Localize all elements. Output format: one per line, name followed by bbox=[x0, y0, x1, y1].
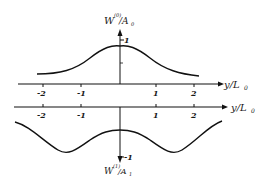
top-xlabel: y/L bbox=[223, 79, 240, 90]
bottom-ylabel-den: /A bbox=[117, 167, 127, 176]
bottom-curve bbox=[15, 121, 222, 152]
bottom-ytick--1: -1 bbox=[124, 152, 133, 162]
bottom-xtick--2: -2 bbox=[37, 110, 46, 120]
top-xtick--1: -1 bbox=[77, 88, 86, 98]
top-ylabel-sub: 0 bbox=[131, 21, 135, 27]
chart-svg: -2 -1 1 2 1 W (0) /A 0 y/L 0 -2 -1 1 2 -… bbox=[0, 0, 267, 182]
top-ytick-1: 1 bbox=[124, 35, 130, 45]
figure: -2 -1 1 2 1 W (0) /A 0 y/L 0 -2 -1 1 2 -… bbox=[0, 0, 267, 182]
bottom-xtick--1: -1 bbox=[77, 110, 86, 120]
top-xlabel-sub: 0 bbox=[244, 84, 248, 91]
top-curve bbox=[37, 46, 199, 76]
bottom-xlabel-sub: 0 bbox=[251, 107, 255, 114]
bottom-panel: -2 -1 1 2 -1 W (1) /A 1 y/L 0 bbox=[14, 102, 255, 177]
bottom-xtick-2: 2 bbox=[190, 110, 197, 120]
bottom-x-axis-arrow-icon bbox=[222, 105, 228, 110]
top-panel: -2 -1 1 2 1 W (0) /A 0 y/L 0 bbox=[18, 12, 248, 98]
bottom-ylabel-sub: 1 bbox=[129, 171, 132, 177]
top-ylabel-den: /A bbox=[118, 16, 129, 26]
top-xtick-2: 2 bbox=[190, 88, 197, 98]
top-y-axis-arrow-icon bbox=[118, 29, 123, 36]
top-xtick--2: -2 bbox=[37, 88, 46, 98]
bottom-xlabel: y/L bbox=[230, 102, 247, 113]
top-xtick-1: 1 bbox=[153, 88, 159, 98]
bottom-xtick-1: 1 bbox=[153, 110, 159, 120]
